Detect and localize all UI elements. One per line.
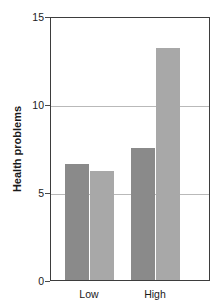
y-tick-mark-0 (45, 281, 50, 282)
y-tick-label-15: 15 (22, 11, 44, 23)
bar-high-series-2 (156, 48, 180, 280)
gridline-10 (51, 106, 209, 107)
y-tick-label-10: 10 (22, 99, 44, 111)
y-axis-tick-labels: 15 10 5 0 (20, 0, 44, 308)
x-tick-label-high: High (125, 288, 185, 300)
bar-low-series-2 (90, 171, 114, 280)
y-tick-label-0: 0 (22, 275, 44, 287)
bar-low-series-1 (65, 164, 89, 280)
plot-area (50, 17, 210, 281)
bar-chart-figure: Health problems 15 10 5 0 Low High (0, 0, 224, 308)
y-tick-label-5: 5 (22, 187, 44, 199)
x-tick-label-low: Low (59, 288, 119, 300)
bar-high-series-1 (131, 148, 155, 280)
